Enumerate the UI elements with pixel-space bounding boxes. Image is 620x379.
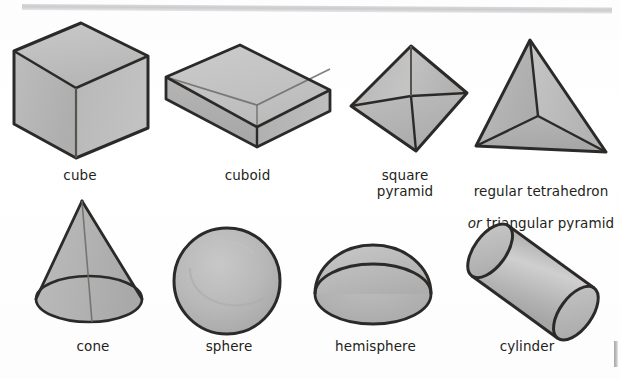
cone-figure bbox=[32, 196, 147, 328]
square-pyramid-figure bbox=[343, 38, 468, 158]
sphere-figure bbox=[168, 224, 288, 340]
hemisphere-icon bbox=[312, 240, 437, 335]
hemisphere-figure bbox=[312, 240, 437, 335]
cuboid-label: cuboid bbox=[165, 167, 330, 183]
cylinder-label: cylinder bbox=[462, 338, 592, 354]
cube-label: cube bbox=[20, 167, 140, 183]
square-pyramid-icon bbox=[343, 38, 468, 158]
page-edge-mark bbox=[614, 341, 618, 367]
cube-icon bbox=[6, 18, 156, 163]
cone-icon bbox=[32, 196, 147, 328]
top-horizontal-rule bbox=[22, 4, 612, 14]
cone-label: cone bbox=[38, 338, 148, 354]
tetrahedron-icon bbox=[468, 28, 618, 158]
cuboid-figure bbox=[160, 35, 335, 147]
cuboid-icon bbox=[160, 35, 335, 147]
cylinder-figure bbox=[458, 226, 608, 338]
cube-figure bbox=[6, 18, 156, 163]
shapes-chart-page: cube bbox=[0, 0, 620, 379]
hemisphere-label: hemisphere bbox=[303, 338, 448, 354]
tetrahedron-figure bbox=[468, 28, 618, 158]
tetrahedron-label-line1: regular tetrahedron bbox=[474, 183, 609, 199]
tetrahedron-label: regular tetrahedron or triangular pyrami… bbox=[462, 167, 620, 231]
sphere-label: sphere bbox=[173, 338, 285, 354]
sphere-icon bbox=[168, 224, 288, 340]
cylinder-icon bbox=[458, 226, 608, 338]
square-pyramid-label: square pyramid bbox=[340, 167, 470, 199]
